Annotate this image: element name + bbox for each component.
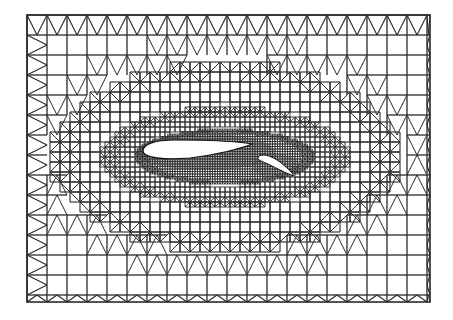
airfoil-mesh-figure: Hierarchical hybrid quadrilateral/triang… [0, 0, 453, 320]
mesh-diagram [0, 0, 453, 320]
